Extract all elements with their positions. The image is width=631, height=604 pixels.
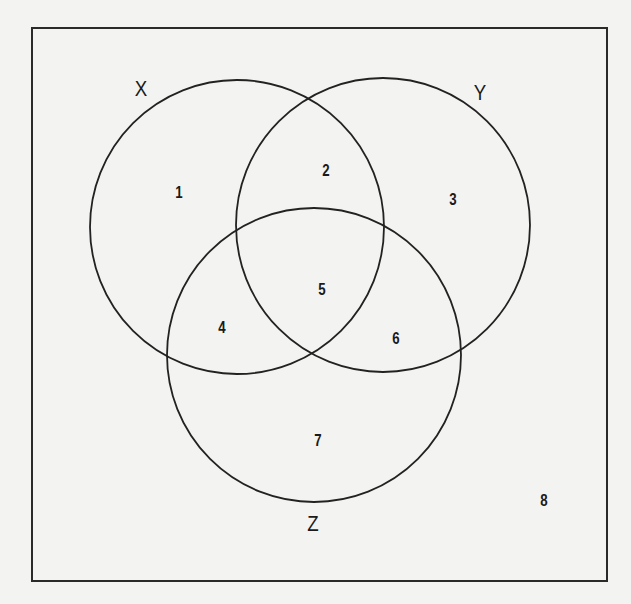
region-8-label: 8 [540,492,547,509]
region-1-label: 1 [175,184,182,201]
universe-rectangle [32,28,607,581]
region-7-label: 7 [314,432,321,449]
region-3-label: 3 [449,191,456,208]
set-x-circle [90,80,384,374]
region-2-label: 2 [322,162,329,179]
region-4-label: 4 [218,319,225,336]
region-5-label: 5 [318,281,325,298]
set-x-label: X [135,78,147,100]
region-6-label: 6 [392,330,399,347]
set-z-label: Z [307,513,318,535]
set-y-label: Y [474,82,486,104]
